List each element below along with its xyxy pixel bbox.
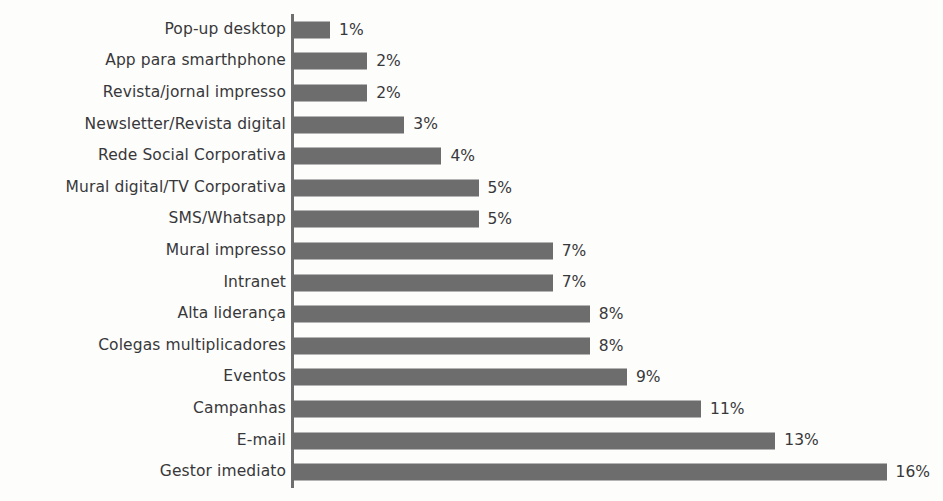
category-label: Eventos [223, 370, 286, 386]
bar [293, 337, 590, 354]
category-label: Mural digital/TV Corporativa [66, 180, 286, 196]
bar-row: SMS/Whatsapp5% [0, 204, 943, 236]
bar-value-label: 13% [784, 433, 818, 449]
bar [293, 400, 701, 417]
category-label: Alta liderança [177, 306, 286, 322]
bar-value-label: 7% [562, 243, 587, 259]
bar-and-value: 7% [293, 242, 586, 259]
bar [293, 148, 441, 165]
bar-row: Mural impresso7% [0, 235, 943, 267]
bar-row: Gestor imediato16% [0, 456, 943, 488]
bar-row: Pop-up desktop1% [0, 14, 943, 46]
bar-row: Alta liderança8% [0, 298, 943, 330]
bar [293, 21, 330, 38]
bar-and-value: 8% [293, 306, 623, 323]
bar [293, 179, 479, 196]
bar-chart: Pop-up desktop1%App para smarthphone2%Re… [0, 0, 943, 501]
category-label: App para smarthphone [105, 54, 286, 70]
bar-value-label: 4% [450, 148, 475, 164]
bar-and-value: 8% [293, 337, 623, 354]
bar-row: Newsletter/Revista digital3% [0, 109, 943, 141]
bar-and-value: 5% [293, 211, 512, 228]
bar-row: Colegas multiplicadores8% [0, 330, 943, 362]
category-label: E-mail [237, 433, 286, 449]
bar-value-label: 1% [339, 22, 364, 38]
bar-and-value: 16% [293, 464, 930, 481]
bar-row: Campanhas11% [0, 393, 943, 425]
bar-row: E-mail13% [0, 425, 943, 457]
category-label: Gestor imediato [160, 464, 286, 480]
bar-row: Mural digital/TV Corporativa5% [0, 172, 943, 204]
bar-value-label: 16% [896, 464, 930, 480]
category-label: Intranet [223, 275, 286, 291]
bar-and-value: 11% [293, 400, 745, 417]
bar-row: Revista/jornal impresso2% [0, 77, 943, 109]
bar-row: Eventos9% [0, 362, 943, 394]
bar-and-value: 4% [293, 148, 475, 165]
category-label: Colegas multiplicadores [98, 338, 286, 354]
bar-value-label: 9% [636, 370, 661, 386]
bar-value-label: 3% [413, 117, 438, 133]
category-label: Revista/jornal impresso [103, 85, 286, 101]
bar-and-value: 2% [293, 84, 401, 101]
bar [293, 432, 775, 449]
bar-and-value: 2% [293, 53, 401, 70]
bar-row: Intranet7% [0, 267, 943, 299]
bar [293, 116, 404, 133]
bar-value-label: 5% [488, 180, 513, 196]
bar-and-value: 9% [293, 369, 660, 386]
bar-row: Rede Social Corporativa4% [0, 140, 943, 172]
bar [293, 274, 553, 291]
bar [293, 306, 590, 323]
bar-row: App para smarthphone2% [0, 46, 943, 78]
bar [293, 464, 887, 481]
bar-value-label: 8% [599, 306, 624, 322]
bar-and-value: 13% [293, 432, 819, 449]
category-label: Rede Social Corporativa [98, 148, 286, 164]
bar-value-label: 5% [488, 212, 513, 228]
bar-and-value: 1% [293, 21, 364, 38]
category-label: Mural impresso [166, 243, 286, 259]
bar-value-label: 7% [562, 275, 587, 291]
category-label: Newsletter/Revista digital [85, 117, 286, 133]
bar-and-value: 5% [293, 179, 512, 196]
bar-value-label: 2% [376, 85, 401, 101]
bar-value-label: 2% [376, 54, 401, 70]
bar [293, 369, 627, 386]
bar-value-label: 11% [710, 401, 744, 417]
category-label: Campanhas [193, 401, 286, 417]
bar [293, 53, 367, 70]
bar-and-value: 3% [293, 116, 438, 133]
category-label: SMS/Whatsapp [169, 212, 286, 228]
bar [293, 84, 367, 101]
plot-area: Pop-up desktop1%App para smarthphone2%Re… [0, 0, 943, 501]
bar [293, 242, 553, 259]
bar-and-value: 7% [293, 274, 586, 291]
category-label: Pop-up desktop [164, 22, 286, 38]
bar [293, 211, 479, 228]
bar-value-label: 8% [599, 338, 624, 354]
